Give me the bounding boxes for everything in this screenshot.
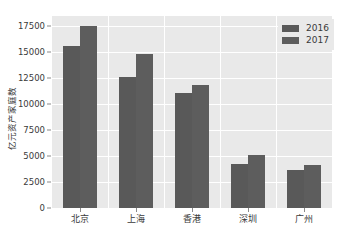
bar-2017-广州 — [304, 165, 321, 208]
y-tick-label: 5000 — [23, 151, 45, 161]
x-tick-label: 北京 — [71, 212, 89, 225]
bar-chart-figure: 亿元资产家庭数 02500500075001000012500150001750… — [0, 0, 344, 239]
y-tick-label: 10000 — [18, 99, 45, 109]
x-tick-mark — [80, 208, 81, 212]
chart-legend: 20162017 — [278, 19, 334, 50]
y-tick-mark — [47, 156, 51, 157]
legend-label: 2016 — [306, 24, 329, 33]
y-axis-label: 亿元资产家庭数 — [5, 63, 17, 173]
y-tick-label: 7500 — [23, 125, 45, 135]
y-tick-mark — [47, 26, 51, 27]
x-axis: 北京上海香港深圳广州 — [52, 208, 332, 230]
y-tick-mark — [47, 52, 51, 53]
y-tick-label: 12500 — [18, 73, 45, 83]
x-tick-label: 广州 — [295, 212, 313, 225]
gridline-vertical — [220, 16, 221, 208]
y-tick-label: 2500 — [23, 177, 45, 187]
x-tick-mark — [136, 208, 137, 212]
legend-swatch-icon — [282, 37, 299, 44]
bar-2017-深圳 — [248, 155, 265, 208]
bar-2016-香港 — [175, 93, 192, 208]
y-tick-mark — [47, 104, 51, 105]
bar-2017-北京 — [80, 26, 97, 208]
bar-2016-广州 — [287, 170, 304, 208]
bar-2016-北京 — [63, 46, 80, 208]
legend-item-2016: 2016 — [282, 23, 329, 34]
bar-2016-上海 — [119, 77, 136, 208]
gridline-vertical — [108, 16, 109, 208]
legend-label: 2017 — [306, 36, 329, 45]
y-tick-mark — [47, 78, 51, 79]
gridline-vertical — [164, 16, 165, 208]
x-tick-label: 深圳 — [239, 212, 257, 225]
bar-2016-深圳 — [231, 164, 248, 208]
y-tick-label: 0 — [40, 203, 45, 213]
y-tick-mark — [47, 182, 51, 183]
x-tick-label: 香港 — [183, 212, 201, 225]
legend-item-2017: 2017 — [282, 35, 329, 46]
x-tick-mark — [304, 208, 305, 212]
y-tick-label: 15000 — [18, 47, 45, 57]
gridline-vertical — [276, 16, 277, 208]
x-tick-mark — [192, 208, 193, 212]
y-axis: 亿元资产家庭数 02500500075001000012500150001750… — [0, 16, 52, 208]
x-tick-label: 上海 — [127, 212, 145, 225]
y-tick-label: 17500 — [18, 21, 45, 31]
x-tick-mark — [248, 208, 249, 212]
legend-swatch-icon — [282, 25, 299, 32]
y-tick-mark — [47, 208, 51, 209]
bar-2017-香港 — [192, 85, 209, 209]
bar-2017-上海 — [136, 54, 153, 208]
clipped-header-strip — [0, 0, 344, 11]
y-tick-mark — [47, 130, 51, 131]
